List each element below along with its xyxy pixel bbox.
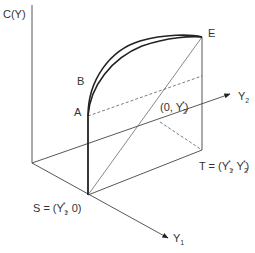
t-prefix: T = (Y: [199, 160, 229, 172]
t-mid: , Y: [231, 160, 244, 172]
point-label-b: B: [77, 75, 84, 87]
s-t-line: [88, 150, 202, 195]
y2star-suffix: ): [185, 101, 189, 113]
t-suffix: ): [246, 160, 250, 172]
y2-axis: [32, 94, 230, 163]
cost-axis-label: C(Y): [3, 8, 26, 20]
y2-axis-label: Y2: [238, 90, 249, 107]
y2-label-sub: 2: [245, 97, 249, 104]
y1-axis-label: Y1: [173, 232, 184, 249]
y2star-prefix: (0, Y: [160, 101, 183, 113]
point-label-y2star: (0, Y2*): [160, 98, 188, 118]
s-prefix: S = (Y: [33, 202, 64, 214]
point-label-t: T = (Y1*, Y2*): [199, 157, 249, 177]
point-label-s: S = (Y1*, 0): [33, 199, 81, 219]
dashed-y2-t-line: [160, 122, 202, 150]
point-label-e: E: [208, 27, 215, 39]
y1-label-sub: 1: [180, 239, 184, 246]
point-label-a: A: [74, 106, 81, 118]
s-suffix: , 0): [66, 202, 82, 214]
